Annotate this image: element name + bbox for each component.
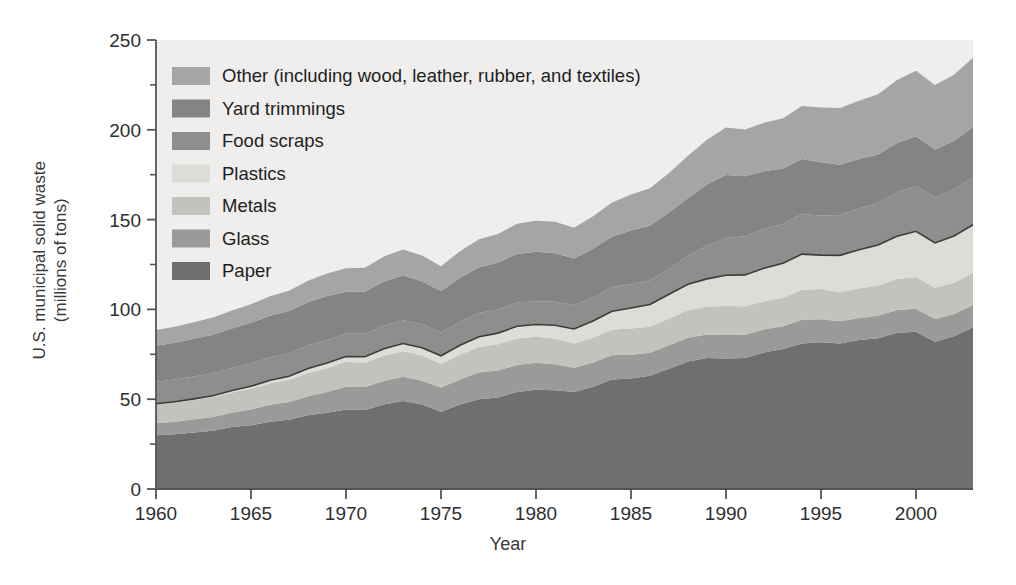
stacked-area-chart: 0501001502002501960196519701975198019851… (0, 0, 1016, 585)
legend-label: Yard trimmings (222, 98, 345, 119)
legend-label: Food scraps (222, 130, 324, 151)
legend-label: Other (including wood, leather, rubber, … (222, 65, 641, 86)
legend-label: Metals (222, 195, 277, 216)
figure-container: 0501001502002501960196519701975198019851… (0, 0, 1016, 585)
x-tick-label: 1960 (135, 503, 177, 524)
legend-swatch (172, 100, 210, 118)
legend-swatch (172, 197, 210, 215)
y-tick-label: 150 (109, 210, 141, 231)
y-tick-label: 100 (109, 299, 141, 320)
x-tick-label: 1990 (705, 503, 747, 524)
x-tick-label: 1975 (420, 503, 462, 524)
y-tick-label: 0 (130, 479, 141, 500)
x-tick-label: 1980 (515, 503, 557, 524)
y-axis-label-line2: (millions of tons) (51, 198, 70, 322)
x-tick-label: 1965 (230, 503, 272, 524)
legend-swatch (172, 67, 210, 85)
legend-swatch (172, 165, 210, 183)
y-tick-label: 250 (109, 30, 141, 51)
x-tick-label: 1995 (800, 503, 842, 524)
legend-label: Plastics (222, 163, 286, 184)
x-tick-label: 2000 (895, 503, 937, 524)
legend-label: Glass (222, 228, 269, 249)
y-axis-label-line1: U.S. municipal solid waste (30, 161, 49, 359)
legend-swatch (172, 230, 210, 248)
legend-label: Paper (222, 260, 271, 281)
x-tick-label: 1985 (610, 503, 652, 524)
legend-swatch (172, 132, 210, 150)
y-tick-label: 50 (120, 389, 141, 410)
x-tick-label: 1970 (325, 503, 367, 524)
y-axis-label: U.S. municipal solid waste (millions of … (14, 0, 86, 520)
y-tick-label: 200 (109, 120, 141, 141)
x-axis-label: Year (0, 534, 1016, 555)
legend-swatch (172, 262, 210, 280)
